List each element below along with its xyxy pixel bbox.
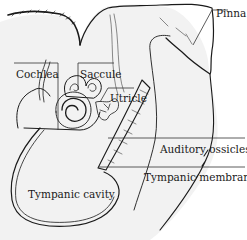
- ear-diagram: Pinna Cochlea Saccule Utricle Auditory o…: [0, 0, 247, 240]
- label-tympanic-membrane: Tympanic membrane: [144, 171, 247, 183]
- label-auditory-ossicles: Auditory ossicles: [159, 143, 247, 155]
- label-saccule: Saccule: [80, 68, 122, 80]
- label-tympanic-cavity: Tympanic cavity: [28, 188, 115, 200]
- label-utricle: Utricle: [110, 92, 147, 104]
- label-pinna: Pinna: [216, 7, 246, 19]
- label-cochlea: Cochlea: [16, 68, 59, 80]
- head-skin-region: [0, 5, 218, 240]
